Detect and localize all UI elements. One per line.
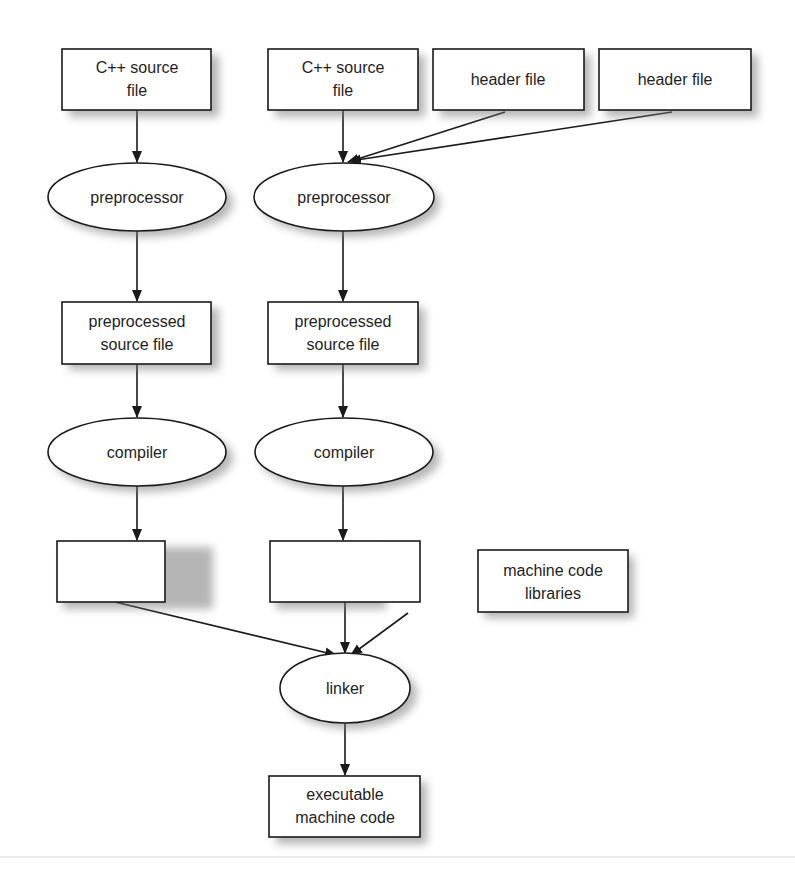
node-header-file-2: header file — [599, 49, 758, 117]
node-label: C++ source — [96, 59, 179, 76]
node-label: file — [333, 82, 354, 99]
node-label: machine code — [295, 809, 395, 826]
node-label: source file — [101, 336, 174, 353]
node-label: file — [127, 82, 148, 99]
node-label: header file — [471, 71, 546, 88]
node-machine-code-2 — [270, 541, 420, 609]
node-executable-machine-code: executablemachine code — [269, 776, 427, 844]
node-preprocessed-source-file-1: preprocessedsource file — [62, 302, 219, 370]
node-label: source file — [307, 336, 380, 353]
node-label: compiler — [314, 444, 375, 461]
compilation-flow-diagram: C++ sourcefile C++ sourcefile header fil… — [0, 0, 795, 890]
node-label: header file — [638, 71, 713, 88]
node-label: preprocessor — [90, 189, 184, 206]
node-preprocessor-2: preprocessor — [254, 163, 440, 237]
node-cpp-source-file-2: C++ sourcefile — [268, 49, 425, 117]
edge-lib-lnk — [351, 613, 408, 655]
node-preprocessor-1: preprocessor — [48, 163, 233, 237]
node-label: preprocessed — [89, 313, 186, 330]
node-compiler-2: compiler — [255, 418, 440, 492]
node-label: linker — [326, 680, 365, 697]
node-label: preprocessed — [295, 313, 392, 330]
node-machine-code-1 — [57, 541, 213, 609]
node-linker: linker — [280, 653, 417, 729]
edge-hdr1-pre2 — [348, 112, 505, 162]
node-label: compiler — [107, 444, 168, 461]
node-machine-code-libraries: machine codelibraries — [478, 550, 634, 618]
node-label: preprocessor — [297, 189, 391, 206]
node-compiler-1: compiler — [48, 418, 233, 492]
node-label: libraries — [525, 585, 581, 602]
node-header-file-1: header file — [433, 49, 591, 117]
edge-mc1-lnk — [115, 602, 336, 655]
node-preprocessed-source-file-2: preprocessedsource file — [268, 302, 425, 370]
edge-hdr2-pre2 — [350, 112, 672, 161]
node-label: executable — [306, 786, 383, 803]
node-label: machine code — [503, 562, 603, 579]
node-cpp-source-file-1: C++ sourcefile — [62, 49, 219, 117]
node-label: C++ source — [302, 59, 385, 76]
